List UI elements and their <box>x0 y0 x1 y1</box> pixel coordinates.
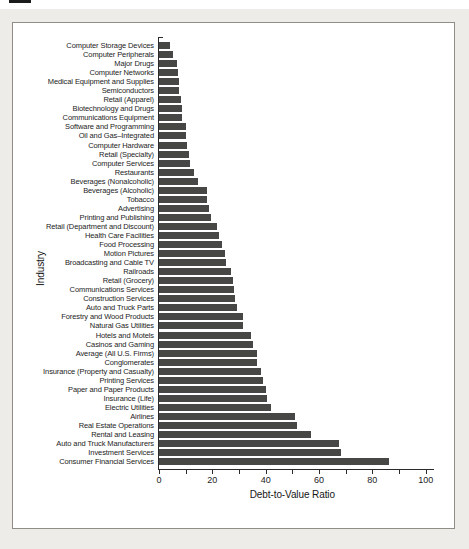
bar <box>158 368 261 375</box>
bar-cell <box>158 421 425 430</box>
bar <box>158 142 187 149</box>
bar-cell <box>158 95 425 104</box>
industry-label: Real Estate Operations <box>13 421 158 430</box>
industry-label: Computer Storage Devices <box>13 41 158 50</box>
industry-label: Printing and Publishing <box>13 213 158 222</box>
chart-row: Tobacco <box>13 195 435 204</box>
bar <box>158 223 217 230</box>
bar <box>158 105 182 112</box>
bar-cell <box>158 231 425 240</box>
chart-row: Beverages (Nonalcoholic) <box>13 177 435 186</box>
bar-cell <box>158 104 425 113</box>
x-axis-tick <box>239 470 240 474</box>
bar-cell <box>158 276 425 285</box>
bar-cell <box>158 258 425 267</box>
industry-label: Computer Networks <box>13 68 158 77</box>
bar-cell <box>158 177 425 186</box>
chart-row: Restaurants <box>13 168 435 177</box>
bar-cell <box>158 385 425 394</box>
chart-row: Broadcasting and Cable TV <box>13 258 435 267</box>
y-axis-line <box>158 37 159 469</box>
bar-cell <box>158 403 425 412</box>
industry-label: Casinos and Gaming <box>13 340 158 349</box>
bar <box>158 196 207 203</box>
chart-row: Insurance (Property and Casualty) <box>13 367 435 376</box>
industry-label: Natural Gas Utilities <box>13 321 158 330</box>
x-axis-tick <box>426 470 427 474</box>
x-axis-title: Debt-to-Value Ratio <box>159 489 426 500</box>
bar-cell <box>158 448 425 457</box>
industry-label: Insurance (Life) <box>13 394 158 403</box>
bar <box>158 422 297 429</box>
bar <box>158 413 295 420</box>
x-axis-tick <box>346 470 347 474</box>
bar-cell <box>158 358 425 367</box>
x-axis-tick-label: 20 <box>207 475 217 485</box>
chart-row: Computer Networks <box>13 68 435 77</box>
chart-row: Advertising <box>13 204 435 213</box>
industry-label: Computer Services <box>13 159 158 168</box>
bar <box>158 232 219 239</box>
bar <box>158 395 267 402</box>
bar-cell <box>158 321 425 330</box>
x-axis-tick <box>186 470 187 474</box>
bar <box>158 178 198 185</box>
industry-label: Rental and Leasing <box>13 430 158 439</box>
bar-cell <box>158 150 425 159</box>
chart-row: Computer Services <box>13 159 435 168</box>
industry-label: Retail (Department and Discount) <box>13 222 158 231</box>
bar <box>158 87 179 94</box>
chart-row: Real Estate Operations <box>13 421 435 430</box>
bar <box>158 268 231 275</box>
bar <box>158 123 186 130</box>
industry-label: Oil and Gas–Integrated <box>13 131 158 140</box>
industry-label: Health Care Facilities <box>13 231 158 240</box>
bar-cell <box>158 195 425 204</box>
bar-cell <box>158 68 425 77</box>
bar-cell <box>158 285 425 294</box>
bar-cell <box>158 113 425 122</box>
x-axis-tick-labels: 020406080100 <box>159 475 426 487</box>
bar <box>158 277 233 284</box>
bar-cell <box>158 376 425 385</box>
chart-row: Printing and Publishing <box>13 213 435 222</box>
bar <box>158 241 222 248</box>
bar <box>158 151 189 158</box>
bar-cell <box>158 131 425 140</box>
chart-row: Auto and Truck Parts <box>13 303 435 312</box>
bar <box>158 132 186 139</box>
chart-row: Retail (Grocery) <box>13 276 435 285</box>
chart-row: Biotechnology and Drugs <box>13 104 435 113</box>
industry-label: Auto and Truck Manufacturers <box>13 439 158 448</box>
chart-row: Hotels and Motels <box>13 331 435 340</box>
chart-row: Health Care Facilities <box>13 231 435 240</box>
chart-rows: Computer Storage DevicesComputer Periphe… <box>13 41 435 466</box>
industry-label: Insurance (Property and Casualty) <box>13 367 158 376</box>
chart-row: Computer Storage Devices <box>13 41 435 50</box>
bar <box>158 42 170 49</box>
bar-cell <box>158 59 425 68</box>
chart-row: Printing Services <box>13 376 435 385</box>
chart-row: Communications Services <box>13 285 435 294</box>
bar-cell <box>158 77 425 86</box>
chart-row: Major Drugs <box>13 59 435 68</box>
x-axis-tick <box>319 470 320 474</box>
bar <box>158 341 253 348</box>
bar-cell <box>158 349 425 358</box>
bar-cell <box>158 168 425 177</box>
chart-row: Communications Equipment <box>13 113 435 122</box>
industry-label: Average (All U.S. Firms) <box>13 349 158 358</box>
x-axis-tick <box>399 470 400 474</box>
industry-label: Communications Services <box>13 285 158 294</box>
scan-artifact <box>9 0 31 3</box>
chart-row: Retail (Department and Discount) <box>13 222 435 231</box>
industry-label: Biotechnology and Drugs <box>13 104 158 113</box>
bar-cell <box>158 249 425 258</box>
bar <box>158 214 211 221</box>
chart-row: Computer Hardware <box>13 141 435 150</box>
industry-label: Beverages (Alcoholic) <box>13 186 158 195</box>
bar <box>158 332 251 339</box>
chart-row: Paper and Paper Products <box>13 385 435 394</box>
chart-row: Semiconductors <box>13 86 435 95</box>
bar-cell <box>158 204 425 213</box>
